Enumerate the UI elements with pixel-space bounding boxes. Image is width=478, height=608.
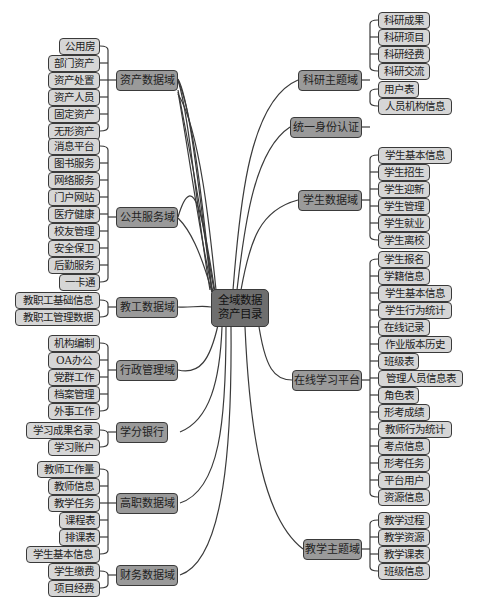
leaf-node[interactable]: 学生管理: [378, 198, 430, 215]
leaf-node-label: 课程表: [65, 515, 95, 526]
leaf-node[interactable]: 消息平台: [48, 138, 100, 155]
leaf-node[interactable]: 固定资产: [48, 106, 100, 123]
leaf-node[interactable]: 形考任务: [378, 455, 430, 472]
branch-node-left-3[interactable]: 行政管理域: [116, 360, 178, 381]
branch-node-left-2[interactable]: 教工数据域: [116, 297, 178, 318]
leaf-node[interactable]: 学生基本信息: [26, 546, 100, 563]
leaf-node-label: 学生基本信息: [385, 150, 445, 161]
branch-node-left-6-label: 财务数据域: [120, 570, 175, 581]
leaf-node[interactable]: 外事工作: [48, 403, 100, 420]
leaf-node[interactable]: 教学课表: [378, 546, 430, 563]
leaf-node[interactable]: 学生招生: [378, 164, 430, 181]
leaf-node[interactable]: 学籍信息: [378, 268, 430, 285]
leaf-node[interactable]: 一卡通: [59, 274, 100, 291]
leaf-node-label: 排课表: [65, 532, 95, 543]
leaf-node-label: 无形资产: [54, 126, 94, 137]
branch-node-left-4-label: 学分银行: [120, 427, 164, 438]
leaf-node[interactable]: 部门资产: [48, 55, 100, 72]
leaf-node[interactable]: 教职工管理数据: [15, 309, 100, 326]
leaf-node[interactable]: 网络服务: [48, 172, 100, 189]
branch-node-left-6[interactable]: 财务数据域: [116, 565, 178, 586]
leaf-node[interactable]: 科研经费: [378, 46, 430, 63]
branch-node-left-1-label: 公共服务域: [120, 212, 175, 223]
leaf-node[interactable]: 在线记录: [378, 319, 430, 336]
leaf-node[interactable]: 学生基本信息: [378, 147, 452, 164]
leaf-node-label: 学生就业: [384, 218, 424, 229]
leaf-node[interactable]: 排课表: [59, 529, 100, 546]
branch-node-left-0[interactable]: 资产数据域: [116, 70, 178, 91]
leaf-node[interactable]: 管理人员信息表: [378, 370, 463, 387]
leaf-node[interactable]: 学生行为统计: [378, 302, 452, 319]
leaf-node[interactable]: 形考成绩: [378, 404, 430, 421]
branch-node-right-2[interactable]: 学生数据域: [298, 190, 362, 211]
leaf-node[interactable]: 学生迎新: [378, 181, 430, 198]
leaf-node-label: 机构编制: [54, 338, 94, 349]
leaf-node[interactable]: 科研成果: [378, 12, 430, 29]
leaf-node[interactable]: 平台用户: [378, 472, 430, 489]
leaf-node[interactable]: 教学任务: [48, 495, 100, 512]
leaf-node[interactable]: 党群工作: [48, 369, 100, 386]
root-node[interactable]: 全域数据 资产目录: [211, 289, 269, 327]
leaf-node[interactable]: 后勤服务: [48, 257, 100, 274]
leaf-node[interactable]: 资源信息: [378, 489, 430, 506]
leaf-node[interactable]: 资产人员: [48, 89, 100, 106]
branch-node-right-0[interactable]: 科研主题域: [298, 70, 362, 91]
leaf-node-label: 学生管理: [384, 201, 424, 212]
leaf-node-label: 医疗健康: [54, 209, 94, 220]
leaf-node[interactable]: 教师工作量: [37, 461, 100, 478]
leaf-node[interactable]: 图书服务: [48, 155, 100, 172]
leaf-node[interactable]: 公用房: [59, 38, 100, 55]
leaf-node-label: 教学课表: [384, 549, 424, 560]
branch-node-left-5[interactable]: 高职数据域: [116, 493, 178, 514]
leaf-node[interactable]: 校友管理: [48, 223, 100, 240]
leaf-node-label: 形考成绩: [384, 407, 424, 418]
leaf-node-label: 用户表: [384, 84, 414, 95]
leaf-node-label: 学习成果名录: [33, 425, 93, 436]
leaf-node[interactable]: 项目经费: [48, 580, 100, 597]
leaf-node[interactable]: 教学过程: [378, 512, 430, 529]
leaf-node-label: 学生离校: [384, 235, 424, 246]
leaf-node-label: 科研交流: [384, 66, 424, 77]
leaf-node-label: 学生缴费: [54, 566, 94, 577]
leaf-node[interactable]: 学生离校: [378, 232, 430, 249]
leaf-node[interactable]: 学生缴费: [48, 563, 100, 580]
leaf-node[interactable]: 用户表: [378, 81, 419, 98]
branch-node-left-1[interactable]: 公共服务域: [116, 207, 178, 228]
leaf-node[interactable]: 教师行为统计: [378, 421, 452, 438]
branch-node-right-4[interactable]: 教学主题域: [303, 539, 362, 560]
branch-node-right-3[interactable]: 在线学习平台: [292, 370, 362, 391]
leaf-node[interactable]: 机构编制: [48, 335, 100, 352]
leaf-node[interactable]: 科研交流: [378, 63, 430, 80]
leaf-node-label: 校友管理: [54, 226, 94, 237]
branch-node-left-4[interactable]: 学分银行: [116, 422, 168, 443]
leaf-node-label: 角色表: [384, 390, 414, 401]
branch-node-right-3-label: 在线学习平台: [294, 375, 360, 386]
leaf-node[interactable]: 学生基本信息: [378, 285, 452, 302]
leaf-node-label: 安全保卫: [54, 243, 94, 254]
leaf-node[interactable]: OA办公: [48, 352, 100, 369]
leaf-node-label: 科研项目: [384, 32, 424, 43]
leaf-node[interactable]: 学习账户: [48, 439, 100, 456]
branch-node-right-1[interactable]: 统一身份认证: [290, 117, 362, 138]
leaf-node[interactable]: 课程表: [59, 512, 100, 529]
leaf-node[interactable]: 教师信息: [48, 478, 100, 495]
leaf-node[interactable]: 学生报名: [378, 251, 430, 268]
leaf-node[interactable]: 医疗健康: [48, 206, 100, 223]
leaf-node[interactable]: 角色表: [378, 387, 419, 404]
leaf-node[interactable]: 学生就业: [378, 215, 430, 232]
leaf-node[interactable]: 班级表: [378, 353, 419, 370]
leaf-node[interactable]: 档案管理: [48, 386, 100, 403]
leaf-node[interactable]: 门户网站: [48, 189, 100, 206]
leaf-node[interactable]: 作业版本历史: [378, 336, 452, 353]
leaf-node[interactable]: 教职工基础信息: [15, 292, 100, 309]
leaf-node-label: 资产处置: [54, 75, 94, 86]
leaf-node[interactable]: 班级信息: [378, 563, 430, 580]
leaf-node[interactable]: 学习成果名录: [26, 422, 100, 439]
leaf-node[interactable]: 人员机构信息: [378, 98, 452, 115]
leaf-node[interactable]: 教学资源: [378, 529, 430, 546]
leaf-node[interactable]: 科研项目: [378, 29, 430, 46]
leaf-node[interactable]: 资产处置: [48, 72, 100, 89]
leaf-node-label: 平台用户: [384, 475, 424, 486]
leaf-node[interactable]: 考点信息: [378, 438, 430, 455]
leaf-node[interactable]: 安全保卫: [48, 240, 100, 257]
